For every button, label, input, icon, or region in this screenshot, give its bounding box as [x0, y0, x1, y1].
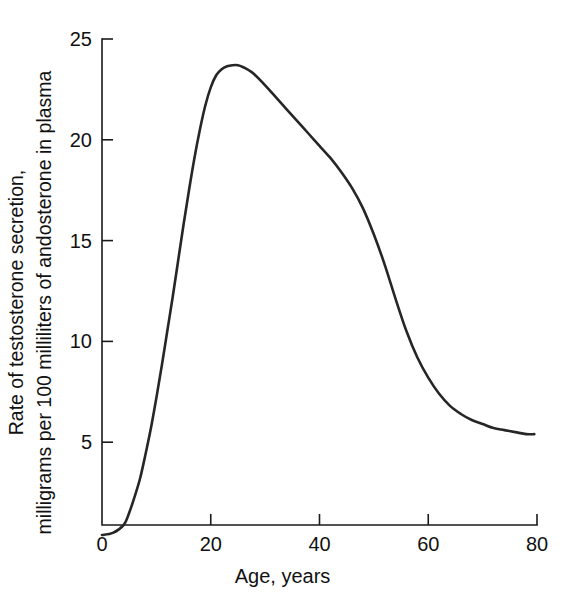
x-axis-tick-label: 60 — [417, 534, 439, 554]
chart-tick-marks — [102, 39, 537, 525]
x-axis-tick-label: 0 — [96, 534, 107, 554]
x-axis-title: Age, years — [0, 565, 565, 588]
y-axis-tick-label: 10 — [52, 331, 92, 351]
y-axis-tick-label: 15 — [52, 231, 92, 251]
axis-spine — [102, 39, 537, 525]
x-axis-tick-label: 80 — [526, 534, 548, 554]
y-axis-tick-label: 20 — [52, 130, 92, 150]
chart-axes — [102, 39, 537, 525]
chart-figure: 510152025 020406080 Age, years Rate of t… — [0, 0, 565, 605]
y-axis-tick-label: 25 — [52, 29, 92, 49]
chart-plot-area — [0, 0, 565, 605]
y-axis-tick-label: 5 — [52, 432, 92, 452]
x-axis-tick-label: 20 — [200, 534, 222, 554]
x-axis-tick-label: 40 — [308, 534, 330, 554]
data-series-line-testosterone — [102, 65, 534, 535]
